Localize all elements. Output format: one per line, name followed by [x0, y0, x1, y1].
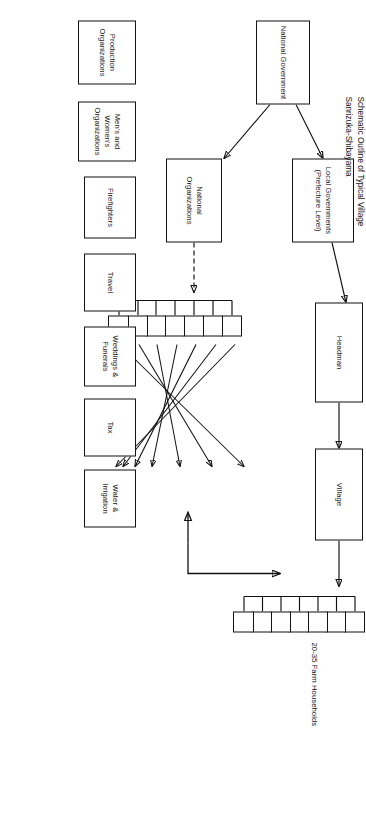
- group-box[interactable]: [221, 315, 242, 336]
- arrow-group-to-mens-womens: [139, 344, 212, 466]
- node-label: National Government: [278, 25, 288, 99]
- group-box[interactable]: [164, 315, 185, 336]
- node-firefighters[interactable]: Firefighters: [84, 176, 136, 238]
- node-village[interactable]: Village: [315, 448, 363, 540]
- node-water-irrigation[interactable]: Water & Irrigation: [84, 469, 136, 527]
- figure-title-line-1: Schematic Outline of Typical Village: [354, 96, 366, 396]
- node-label: Men's and Women's Organizations: [92, 107, 122, 155]
- households-caption: 20-35 Farm Households: [309, 642, 319, 782]
- node-label: Firefighters: [105, 187, 115, 226]
- node-label: Travel: [105, 271, 115, 292]
- node-label: Water & Irrigation: [100, 483, 120, 514]
- group-box[interactable]: [202, 315, 223, 336]
- household-box[interactable]: [252, 611, 273, 632]
- node-tax-rendered[interactable]: Tax: [84, 398, 136, 456]
- household-box[interactable]: [270, 611, 291, 632]
- household-box[interactable]: [289, 611, 310, 632]
- figure-title: Schematic Outline of Typical VillageSanr…: [342, 96, 366, 396]
- node-production-organizations[interactable]: Production Organizations: [78, 20, 136, 84]
- arrow-natgov-to-natorgs: [224, 104, 270, 158]
- node-mens-womens-organizations[interactable]: Men's and Women's Organizations: [78, 101, 136, 161]
- group-box[interactable]: [183, 315, 204, 336]
- node-national-organizations[interactable]: National Organizations: [166, 158, 222, 242]
- household-box[interactable]: [233, 611, 254, 632]
- node-national-government[interactable]: National Government: [256, 20, 310, 104]
- node-label: Production Organizations: [97, 28, 117, 76]
- arrow-group-to-firefighters: [157, 344, 180, 466]
- household-box[interactable]: [344, 611, 365, 632]
- arrow-natgov-to-localgov: [296, 104, 323, 158]
- node-label: Weddings & Funerals: [100, 335, 120, 377]
- group-box[interactable]: [145, 315, 166, 336]
- node-travel[interactable]: Travel: [84, 253, 136, 311]
- node-label: Local Governments (Prefecture Level): [313, 166, 333, 234]
- figure-title-line-2: Sanrizuka-Shibayama: [342, 96, 354, 396]
- figure-canvas: National Government Local Governments (P…: [0, 0, 366, 829]
- node-weddings-funerals-rendered[interactable]: Weddings & Funerals: [84, 326, 136, 386]
- diagram-rotated-group: National Government Local Governments (P…: [0, 0, 366, 829]
- node-label: National Organizations: [184, 161, 204, 239]
- household-box[interactable]: [307, 611, 328, 632]
- household-box[interactable]: [326, 611, 347, 632]
- arrow-group-to-weddings-funerals: [135, 344, 196, 466]
- arrow-group-to-tax: [123, 344, 216, 466]
- arrow-group-to-production: [120, 344, 244, 466]
- node-label: Village: [334, 482, 344, 505]
- arrow-group-to-travel: [152, 344, 177, 466]
- node-label: Tax: [105, 421, 115, 433]
- arrow-functions-to-households: [188, 543, 280, 573]
